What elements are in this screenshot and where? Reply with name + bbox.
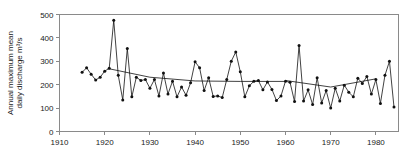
y-tick-label: 100 <box>40 104 54 113</box>
data-point <box>356 77 359 80</box>
data-point <box>103 70 106 73</box>
data-point <box>338 100 341 103</box>
data-point <box>257 79 260 82</box>
data-point <box>108 67 111 70</box>
x-tick-label: 1980 <box>367 138 385 147</box>
data-point <box>166 93 169 96</box>
data-point <box>325 89 328 92</box>
data-point <box>234 50 237 53</box>
data-point <box>311 103 314 106</box>
data-point <box>347 91 350 94</box>
data-point <box>289 81 292 84</box>
data-point <box>329 107 332 110</box>
data-point <box>293 100 296 103</box>
data-point <box>320 101 323 104</box>
data-point <box>189 81 192 84</box>
data-point <box>279 94 282 97</box>
data-point <box>207 76 210 79</box>
x-tick-label: 1920 <box>96 138 114 147</box>
data-point <box>212 95 215 98</box>
data-point <box>266 80 269 83</box>
data-point <box>198 66 201 69</box>
data-point <box>307 88 310 91</box>
x-tick-label: 1940 <box>186 138 204 147</box>
data-point <box>316 76 319 79</box>
x-tick-label: 1950 <box>231 138 249 147</box>
y-tick-label: 300 <box>40 57 54 66</box>
data-point <box>388 60 391 63</box>
data-point <box>117 74 120 77</box>
x-tick-label: 1910 <box>51 138 69 147</box>
data-point <box>365 75 368 78</box>
data-point <box>239 70 242 73</box>
data-point <box>392 105 395 108</box>
data-point <box>81 71 84 74</box>
data-point <box>130 95 133 98</box>
data-point <box>203 89 206 92</box>
data-point <box>248 84 251 87</box>
data-point <box>99 76 102 79</box>
data-point <box>383 74 386 77</box>
data-point <box>261 88 264 91</box>
discharge-time-series-chart: 0100200300400500 19101920193019401950196… <box>0 0 416 158</box>
y-tick-label: 0 <box>49 128 54 137</box>
chart-figure: 0100200300400500 19101920193019401950196… <box>0 0 416 158</box>
data-point <box>284 80 287 83</box>
data-point <box>252 80 255 83</box>
y-tick-label: 200 <box>40 81 54 90</box>
data-point <box>162 72 165 75</box>
data-point <box>275 99 278 102</box>
y-tick-label: 500 <box>40 11 54 20</box>
data-point <box>270 88 273 91</box>
data-point <box>302 100 305 103</box>
data-point <box>379 102 382 105</box>
data-point <box>194 60 197 63</box>
data-point <box>361 82 364 85</box>
data-point <box>85 66 88 69</box>
data-point <box>153 78 156 81</box>
data-point <box>370 93 373 96</box>
x-tick-label: 1960 <box>277 138 295 147</box>
data-point <box>112 19 115 22</box>
data-point <box>225 78 228 81</box>
data-point <box>216 94 219 97</box>
data-point <box>94 79 97 82</box>
data-point <box>243 95 246 98</box>
data-point <box>185 94 188 97</box>
data-point <box>374 78 377 81</box>
data-point <box>334 87 337 90</box>
data-point <box>180 86 183 89</box>
data-point <box>352 95 355 98</box>
data-point <box>298 44 301 47</box>
data-point <box>230 60 233 63</box>
x-tick-label: 1930 <box>141 138 159 147</box>
data-point <box>157 94 160 97</box>
data-point <box>343 84 346 87</box>
data-point <box>148 87 151 90</box>
x-tick-label: 1970 <box>322 138 340 147</box>
data-point <box>139 79 142 82</box>
data-point <box>171 80 174 83</box>
data-point <box>221 96 224 99</box>
data-point <box>135 76 138 79</box>
y-axis-title: Annual maximum meandaily discharge m³/s <box>6 31 24 115</box>
data-point <box>90 73 93 76</box>
y-axis-title-line: daily discharge m³/s <box>15 37 24 108</box>
data-point <box>176 95 179 98</box>
y-axis-title-line: Annual maximum mean <box>6 31 15 115</box>
y-axis-title-group: Annual maximum meandaily discharge m³/s <box>6 31 24 115</box>
data-point <box>121 98 124 101</box>
data-point <box>144 78 147 81</box>
data-point <box>126 47 129 50</box>
y-tick-label: 400 <box>40 34 54 43</box>
